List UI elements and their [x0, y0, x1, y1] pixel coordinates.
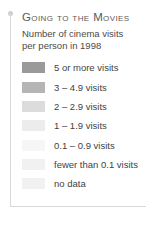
legend-row-label: fewer than 0.1 visits: [54, 159, 138, 170]
legend-row-label: no data: [54, 178, 86, 189]
legend-row-label: 5 or more visits: [54, 62, 118, 73]
legend-row-label: 1 – 1.9 visits: [54, 120, 107, 131]
legend-swatch: [22, 82, 45, 93]
legend-swatch: [22, 159, 45, 170]
legend-row: 2 – 2.9 visits: [22, 97, 148, 116]
legend-row: fewer than 0.1 visits: [22, 155, 148, 174]
legend-subtitle: Number of cinema visits per person in 19…: [22, 28, 148, 51]
legend-row: 0.1 – 0.9 visits: [22, 135, 148, 154]
legend-rows: 5 or more visits 3 – 4.9 visits 2 – 2.9 …: [22, 58, 148, 193]
legend-swatch: [22, 62, 45, 73]
legend-swatch: [22, 101, 45, 112]
legend-row-label: 0.1 – 0.9 visits: [54, 140, 115, 151]
map-legend-panel: Going to the Movies Number of cinema vis…: [0, 0, 155, 235]
legend-row: 5 or more visits: [22, 58, 148, 77]
legend-subtitle-line-1: Number of cinema visits: [22, 28, 148, 40]
legend-row-label: 3 – 4.9 visits: [54, 82, 107, 93]
legend-row: 3 – 4.9 visits: [22, 77, 148, 96]
legend-subtitle-line-2: per person in 1998: [22, 40, 148, 52]
legend-row-label: 2 – 2.9 visits: [54, 101, 107, 112]
legend-content: Going to the Movies Number of cinema vis…: [22, 10, 148, 193]
legend-swatch: [22, 178, 45, 189]
legend-swatch: [22, 120, 45, 131]
legend-frame-left-rule: [10, 14, 11, 207]
legend-frame-bottom-rule: [10, 206, 146, 207]
legend-title: Going to the Movies: [22, 10, 148, 24]
legend-swatch: [22, 140, 45, 151]
legend-row: 1 – 1.9 visits: [22, 116, 148, 135]
legend-row: no data: [22, 174, 148, 193]
